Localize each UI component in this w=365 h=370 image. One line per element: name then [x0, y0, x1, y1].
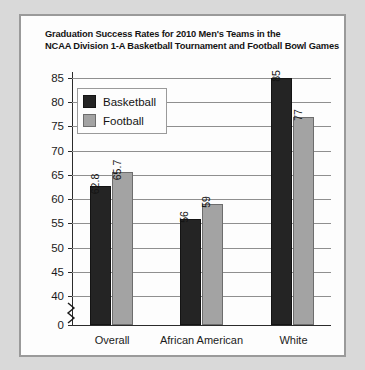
x-category-label-african-american: African American: [160, 334, 243, 346]
y-tick-label-75: 75: [51, 120, 64, 132]
legend-item-football: Football: [83, 111, 156, 130]
bar-group-african-american: 5659: [180, 204, 223, 325]
legend-swatch-basketball: [83, 95, 96, 108]
axis-break-icon: [65, 302, 81, 324]
bar-football-african-american: 59: [202, 204, 223, 325]
y-tick-label-85: 85: [51, 72, 64, 84]
bar-football-overall: 65.7: [112, 172, 133, 326]
y-tick-label-0: 0: [58, 319, 64, 331]
bar-basketball-white: 85: [271, 78, 292, 325]
bar-value-label: 56: [178, 211, 190, 223]
chart-title: Graduation Success Rates for 2010 Men's …: [45, 28, 335, 52]
bar-basketball-african-american: 56: [180, 219, 201, 326]
y-tick-0: [68, 325, 72, 326]
bar-basketball-overall: 62.8: [90, 186, 111, 325]
bar-group-white: 8577: [271, 78, 314, 325]
chart-figure: Graduation Success Rates for 2010 Men's …: [19, 14, 346, 357]
y-tick-label-60: 60: [51, 193, 64, 205]
legend-swatch-football: [83, 114, 96, 127]
bar-value-label: 77: [292, 109, 304, 121]
x-category-label-overall: Overall: [95, 334, 130, 346]
x-axis-line: [72, 325, 331, 326]
y-tick-label-55: 55: [51, 217, 64, 229]
x-category-label-white: White: [279, 334, 307, 346]
legend-label-basketball: Basketball: [103, 96, 156, 108]
y-tick-label-70: 70: [51, 145, 64, 157]
y-tick-label-50: 50: [51, 242, 64, 254]
bar-value-label: 59: [200, 196, 212, 208]
y-tick-label-45: 45: [51, 266, 64, 278]
y-tick-label-40: 40: [51, 290, 64, 302]
y-tick-label-80: 80: [51, 96, 64, 108]
chart-title-line-1: Graduation Success Rates for 2010 Men's …: [45, 28, 335, 40]
y-tick-label-65: 65: [51, 169, 64, 181]
bar-group-overall: 62.865.7: [90, 172, 133, 326]
chart-legend: Basketball Football: [77, 88, 167, 134]
legend-label-football: Football: [103, 115, 144, 127]
bar-value-label: 65.7: [111, 159, 123, 179]
bar-value-label: 62.8: [89, 173, 101, 193]
bar-football-white: 77: [293, 117, 314, 325]
bar-value-label: 85: [270, 70, 282, 82]
legend-item-basketball: Basketball: [83, 92, 156, 111]
chart-title-line-2: NCAA Division 1-A Basketball Tournament …: [45, 40, 335, 52]
